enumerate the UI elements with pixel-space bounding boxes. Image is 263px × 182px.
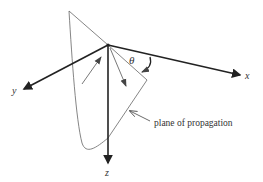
plane-label: plane of propagation [154,118,233,128]
incident-arrow-icon [82,57,101,84]
z-axis-label: z [104,167,109,178]
y-axis [24,45,108,89]
y-axis-label: y [11,85,17,96]
wave-arrows [82,47,126,87]
x-axis-label: x [244,70,250,81]
origin-point [106,43,109,46]
propagation-diagram: θ plane of propagation x y z [0,0,263,182]
x-axis [108,45,240,75]
annotation-arrow-icon [130,111,150,121]
theta-arc [142,57,151,72]
theta-label: θ [129,54,135,66]
